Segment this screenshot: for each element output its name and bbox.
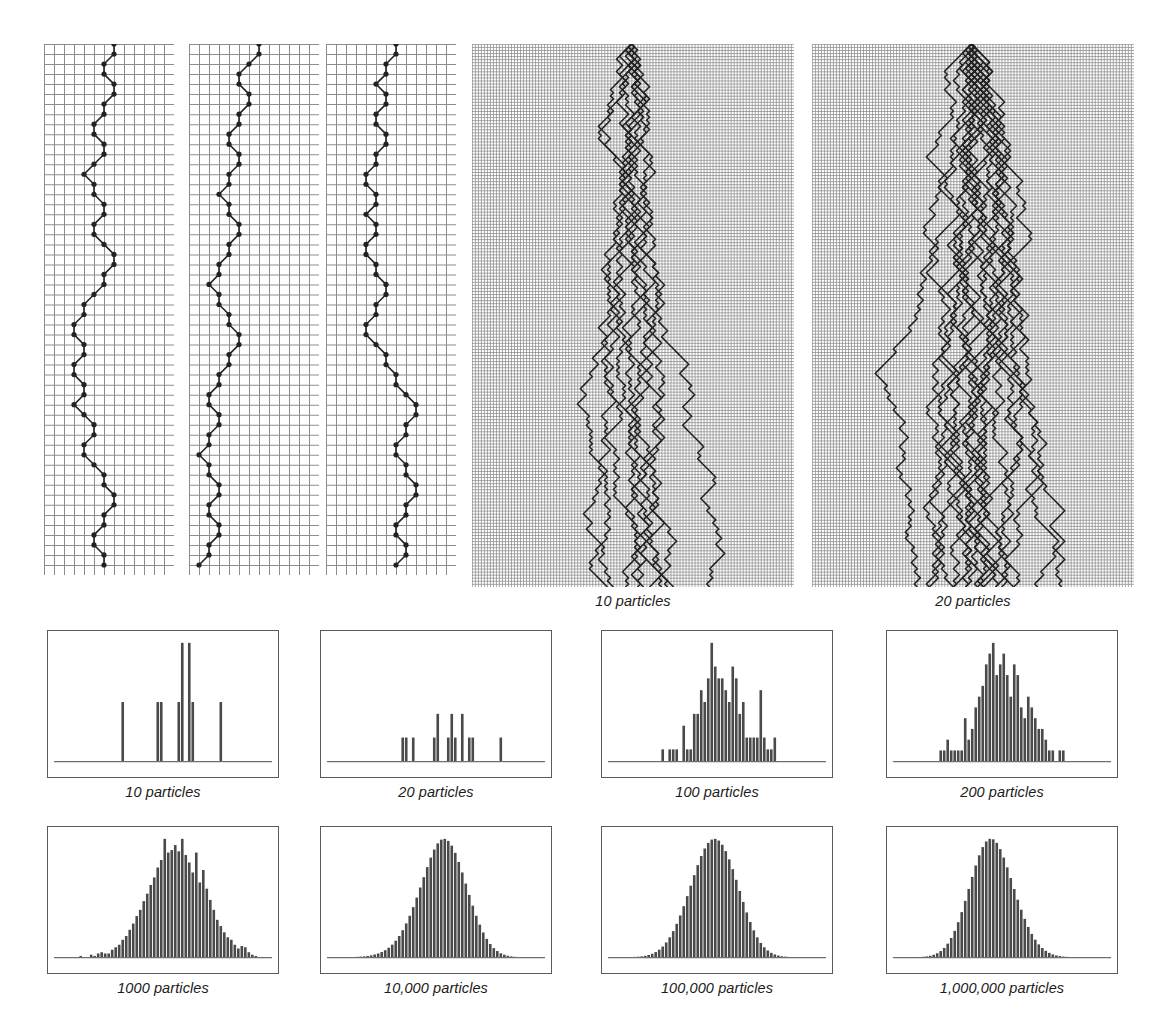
histogram-panel-100 (601, 630, 833, 778)
histogram-caption-1000: 1000 particles (47, 980, 279, 996)
histogram-panel-10000 (320, 826, 552, 974)
walk-panel-4 (472, 44, 794, 587)
histogram-caption-200: 200 particles (886, 784, 1118, 800)
walk-panel-5 (812, 44, 1134, 587)
histogram-panel-100000 (601, 826, 833, 974)
histogram-caption-1000000: 1,000,000 particles (886, 980, 1118, 996)
histogram-panel-200 (886, 630, 1118, 778)
random-walk-figure: 10 particles 20 particles 10 particles 2… (0, 0, 1168, 1030)
histogram-caption-100000: 100,000 particles (601, 980, 833, 996)
histogram-panel-1000000 (886, 826, 1118, 974)
histogram-caption-100: 100 particles (601, 784, 833, 800)
histogram-panel-1000 (47, 826, 279, 974)
histogram-panel-10 (47, 630, 279, 778)
walk-caption-10: 10 particles (472, 593, 794, 609)
walk-panel-3 (326, 44, 456, 575)
histogram-panel-20 (320, 630, 552, 778)
walk-panel-2 (189, 44, 319, 575)
histogram-caption-10: 10 particles (47, 784, 279, 800)
histogram-caption-20: 20 particles (320, 784, 552, 800)
walk-panel-1 (44, 44, 174, 575)
histogram-caption-10000: 10,000 particles (320, 980, 552, 996)
walk-caption-20: 20 particles (812, 593, 1134, 609)
